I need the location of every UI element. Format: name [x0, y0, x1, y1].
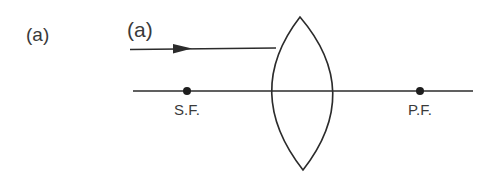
primary-focus-dot: [416, 87, 424, 95]
ray-arrow-icon: [173, 44, 192, 54]
biconvex-lens: [272, 17, 333, 170]
incident-ray: [130, 48, 276, 50]
optics-diagram: [0, 0, 494, 174]
secondary-focus-label: S.F.: [174, 101, 200, 118]
primary-focus-label: P.F.: [408, 101, 432, 118]
secondary-focus-dot: [183, 87, 191, 95]
